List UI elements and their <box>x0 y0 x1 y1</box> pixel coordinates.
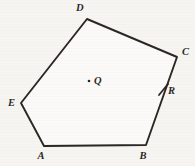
vertex-label-e: E <box>7 97 15 108</box>
point-label-q: Q <box>94 75 102 86</box>
geometry-figure: A B C D E Q R <box>0 0 195 166</box>
vertex-label-a: A <box>36 150 44 161</box>
pentagon-diagram: A B C D E Q R <box>0 0 195 166</box>
vertex-label-c: C <box>182 46 190 57</box>
point-label-r: R <box>167 85 175 96</box>
vertex-label-d: D <box>75 2 84 13</box>
vertex-label-b: B <box>138 150 146 161</box>
